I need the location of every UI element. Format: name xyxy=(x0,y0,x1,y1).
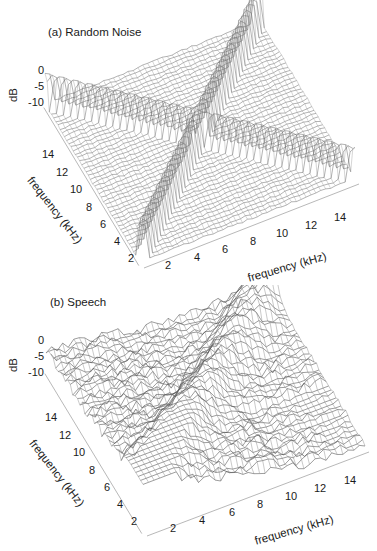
x-tick: 10 xyxy=(276,228,288,239)
x-tick: 14 xyxy=(344,475,356,486)
y-tick: 2 xyxy=(131,516,137,527)
x-tick: 4 xyxy=(199,515,205,526)
y-tick: 4 xyxy=(117,499,123,510)
x-tick: 10 xyxy=(285,491,297,502)
y-tick: 4 xyxy=(114,236,120,247)
z-tick: 0 xyxy=(22,335,44,346)
y-tick: 6 xyxy=(104,482,110,493)
z-tick: -5 xyxy=(22,81,44,92)
plot-title: (b) Speech xyxy=(50,296,106,308)
x-tick: 2 xyxy=(170,523,176,534)
y-tick: 10 xyxy=(73,447,85,458)
y-tick: 14 xyxy=(42,149,54,160)
y-tick: 2 xyxy=(128,253,134,264)
x-tick: 6 xyxy=(222,244,228,255)
x-tick: 8 xyxy=(257,499,263,510)
y-tick: 6 xyxy=(100,219,106,230)
x-tick: 12 xyxy=(314,483,326,494)
y-tick: 12 xyxy=(59,430,71,441)
z-tick: -10 xyxy=(22,367,44,378)
panel-speech: (b) Speech 0 -5 -10 dB 14 12 10 8 6 4 2 … xyxy=(0,285,377,551)
y-tick: 14 xyxy=(45,412,57,423)
y-tick: 12 xyxy=(56,167,68,178)
z-axis-label: dB xyxy=(7,358,19,372)
x-tick: 2 xyxy=(165,260,171,271)
z-tick: -5 xyxy=(22,351,44,362)
x-tick: 4 xyxy=(194,252,200,263)
surface-plot-random-noise xyxy=(0,0,377,285)
x-tick: 14 xyxy=(334,212,346,223)
x-tick: 6 xyxy=(229,507,235,518)
y-tick: 8 xyxy=(86,202,92,213)
y-tick: 8 xyxy=(89,465,95,476)
z-tick: 0 xyxy=(22,65,44,76)
y-tick: 10 xyxy=(70,184,82,195)
x-tick: 8 xyxy=(250,236,256,247)
z-tick: -10 xyxy=(22,97,44,108)
z-axis-label: dB xyxy=(7,88,19,102)
x-tick: 12 xyxy=(305,220,317,231)
panel-random-noise: (a) Random Noise 0 -5 -10 dB 14 12 10 8 … xyxy=(0,0,377,285)
plot-title: (a) Random Noise xyxy=(48,26,141,38)
